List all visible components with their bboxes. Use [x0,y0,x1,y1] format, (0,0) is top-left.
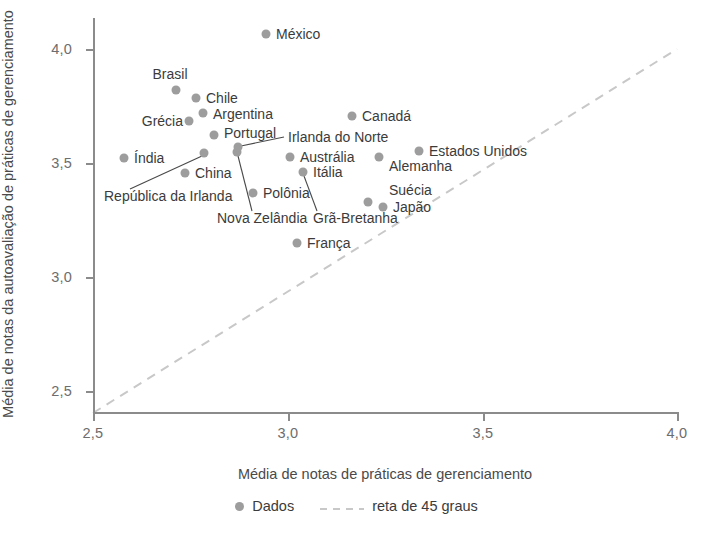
point-label-irlanda-do-norte: Irlanda do Norte [288,129,388,145]
data-point-fran-a [293,239,302,248]
point-label-alemanha: Alemanha [389,158,452,174]
data-point-irlanda-do-norte [234,143,243,152]
point-label-portugal: Portugal [224,125,276,141]
point-label-su-cia: Suécia [389,182,432,198]
scatter-chart: 4,0 3,5 3,0 2,5 2,5 3,0 3,5 4,0 Média de… [0,0,713,539]
point-label-argentina: Argentina [213,106,273,122]
x-tick-3-0 [288,414,290,421]
data-point-portugal [210,131,219,140]
point-label-rep-blica-da-irlanda: República da Irlanda [104,188,232,204]
label-leader-lines [0,0,713,539]
x-axis-line [93,412,679,414]
y-tick-label-3-0: 3,0 [32,269,72,285]
y-axis-line [93,18,95,414]
x-tick-3-5 [483,414,485,421]
x-axis-title: Média de notas de práticas de gerenciame… [93,466,677,482]
data-point-chile [192,94,201,103]
point-label-gr-bretanha: Grã-Bretanha [313,210,398,226]
reference-line-45deg [0,0,713,539]
x-tick-label-3-0: 3,0 [258,425,318,441]
point-label-brasil: Brasil [110,66,230,82]
x-tick-4-0 [677,414,679,421]
legend-label-dados: Dados [252,498,294,514]
data-point-su-cia [364,198,373,207]
data-point-austr-lia [286,153,295,162]
x-tick-label-4-0: 4,0 [647,425,707,441]
x-tick-label-2-5: 2,5 [63,425,123,441]
point-label-canad-: Canadá [362,108,411,124]
legend-item-dados: Dados [235,498,294,514]
point-label-jap-o: Japão [393,199,431,215]
y-tick-label-2-5: 2,5 [32,383,72,399]
y-axis-title: Média de notas da autoavaliação de práti… [0,0,24,434]
y-tick-3-0 [86,277,93,279]
y-tick-4-0 [86,49,93,51]
point-label-m-xico: México [276,26,320,42]
legend-label-reta-45: reta de 45 graus [372,498,478,514]
point-label-chile: Chile [206,90,238,106]
data-point-jap-o [379,203,388,212]
data-point-china [181,169,190,178]
x-tick-2-5 [93,414,95,421]
legend-dashed-line-icon [320,501,364,511]
data-point--ndia [120,154,129,163]
data-point-pol-nia [249,189,258,198]
x-tick-label-3-5: 3,5 [453,425,513,441]
legend-item-reta-45: reta de 45 graus [320,498,478,514]
y-tick-label-3-5: 3,5 [32,155,72,171]
point-label-nova-zel-ndia: Nova Zelândia [217,210,307,226]
data-point-canad- [348,112,357,121]
point-label-it-lia: Itália [313,164,343,180]
point-label-austr-lia: Austrália [300,149,354,165]
point-label-gr-cia: Grécia [0,113,183,129]
legend-dot-icon [235,502,244,511]
point-label-china: China [195,165,232,181]
data-point-m-xico [262,30,271,39]
chart-legend: Dados reta de 45 graus [0,498,713,514]
y-tick-label-4-0: 4,0 [32,41,72,57]
y-tick-2-5 [86,391,93,393]
data-point-argentina [199,109,208,118]
data-point-it-lia [299,168,308,177]
point-label--ndia: Índia [134,150,164,166]
data-point-brasil [172,86,181,95]
data-point-alemanha [375,153,384,162]
data-point-gr-cia [185,117,194,126]
point-label-estados-unidos: Estados Unidos [429,143,527,159]
data-point-estados-unidos [415,147,424,156]
y-tick-3-5 [86,163,93,165]
point-label-pol-nia: Polônia [263,185,310,201]
point-label-fran-a: França [307,235,351,251]
data-point-rep-blica-da-irlanda [200,149,209,158]
